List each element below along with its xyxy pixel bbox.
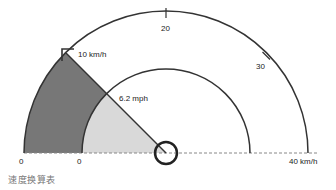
outer-label-30: 30 xyxy=(256,62,265,71)
speed-conversion-diagram: 0 10 km/h 20 30 40 km/h 0 6.2 mph xyxy=(0,0,336,190)
diagram-caption: 速度换算表 xyxy=(8,173,56,186)
outer-label-10: 10 km/h xyxy=(78,50,106,59)
inner-label-0: 0 xyxy=(77,157,82,166)
outer-label-0: 0 xyxy=(19,157,24,166)
outer-label-20: 20 xyxy=(161,24,170,33)
outer-label-40: 40 km/h xyxy=(289,157,317,166)
inner-label-mph: 6.2 mph xyxy=(119,94,148,103)
